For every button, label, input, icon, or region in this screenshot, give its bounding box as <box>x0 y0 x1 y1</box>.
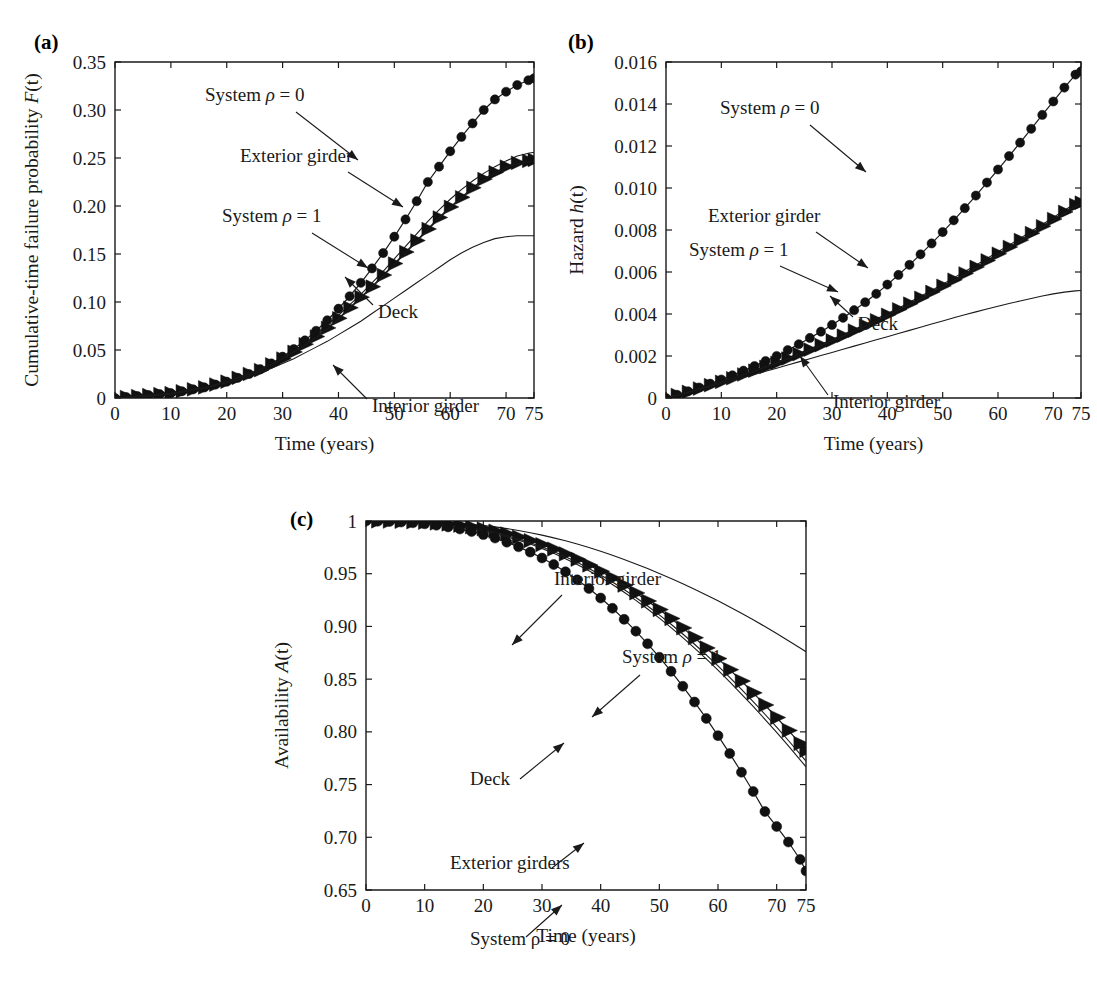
panel-label-b: (b) <box>568 30 594 55</box>
series-line <box>666 203 1081 398</box>
annot-system-rho-1: System ρ = 1 <box>222 205 322 226</box>
y-tick-label: 1 <box>348 511 358 532</box>
y-axis-title: Cumulative-time failure probability F(t) <box>21 73 43 387</box>
x-tick-label: 0 <box>661 403 671 424</box>
y-tick-label: 0 <box>97 388 107 409</box>
x-tick-label: 0 <box>110 403 120 424</box>
y-tick-label: 0.25 <box>73 148 106 169</box>
annot-interior-girder: Interior girder <box>372 395 480 416</box>
y-tick-label: 0.35 <box>73 52 106 73</box>
y-tick-label: 0.10 <box>73 292 106 313</box>
x-tick-label: 30 <box>273 403 292 424</box>
y-tick-label: 0.008 <box>614 220 657 241</box>
annot-system-rho-1: System ρ = 1 <box>689 239 789 260</box>
series-line <box>366 521 806 767</box>
x-tick-label: 70 <box>767 895 786 916</box>
series-markers <box>110 74 538 403</box>
x-tick-label: 20 <box>217 403 236 424</box>
x-axis-title: Time (years) <box>824 433 923 455</box>
series-line <box>666 290 1081 398</box>
annot-system-rho-0: System ρ = 0 <box>720 97 820 118</box>
panel-b: (b)0102030405060707500.0020.0040.0060.00… <box>548 0 1097 490</box>
chart-a: 0102030405060707500.050.100.150.200.250.… <box>0 0 548 490</box>
annot-system-rho-1: System ρ = 1 <box>622 646 722 667</box>
x-tick-label: 10 <box>712 403 731 424</box>
annot-system-rho-0: System ρ = 0 <box>205 84 305 105</box>
x-tick-label: 10 <box>415 895 434 916</box>
x-axis-title: Time (years) <box>275 433 374 455</box>
chart-c: 010203040506070750.650.700.750.800.850.9… <box>262 485 822 990</box>
panel-label-a: (a) <box>34 30 59 55</box>
y-tick-label: 0.80 <box>324 721 357 742</box>
series-line <box>366 521 806 750</box>
series-line <box>115 160 534 398</box>
x-tick-label: 70 <box>497 403 516 424</box>
series-line <box>666 71 1081 398</box>
annot-system-rho-0: System ρ = 0 <box>470 928 570 949</box>
y-tick-label: 0.014 <box>614 94 657 115</box>
y-tick-label: 0.016 <box>614 52 657 73</box>
annot-deck: Deck <box>470 768 511 789</box>
x-tick-label: 60 <box>709 895 728 916</box>
annot-exterior-girders: Exterior girders <box>450 852 570 873</box>
annot-deck: Deck <box>858 313 899 334</box>
y-tick-label: 0 <box>648 388 658 409</box>
x-tick-label: 75 <box>1072 403 1091 424</box>
y-tick-label: 0.70 <box>324 827 357 848</box>
panel-a: (a)0102030405060707500.050.100.150.200.2… <box>0 0 548 490</box>
y-tick-label: 0.012 <box>614 136 657 157</box>
series-line <box>666 202 1081 398</box>
x-tick-label: 60 <box>989 403 1008 424</box>
panel-label-c: (c) <box>290 507 313 532</box>
annot-exterior-girder: Exterior girder <box>708 205 821 226</box>
annot-deck: Deck <box>378 301 419 322</box>
axis-ticks <box>115 62 534 398</box>
x-tick-label: 75 <box>525 403 544 424</box>
svg-text:Cumulative-time failure probab: Cumulative-time failure probability F(t) <box>21 73 43 387</box>
y-tick-label: 0.85 <box>324 669 357 690</box>
y-tick-label: 0.75 <box>324 774 357 795</box>
x-tick-label: 40 <box>591 895 610 916</box>
y-tick-label: 0.002 <box>614 346 657 367</box>
y-tick-label: 0.010 <box>614 178 657 199</box>
x-tick-label: 50 <box>650 895 669 916</box>
y-tick-label: 0.95 <box>324 563 357 584</box>
y-tick-label: 0.004 <box>614 304 657 325</box>
y-axis-title: Availability A(t) <box>271 642 293 769</box>
annotations: System ρ = 0Exterior girderSystem ρ = 1D… <box>689 97 941 412</box>
x-tick-label: 40 <box>329 403 348 424</box>
x-tick-label: 10 <box>161 403 180 424</box>
x-tick-label: 20 <box>767 403 786 424</box>
annot-interior-girder: Interior girder <box>554 568 662 589</box>
y-tick-label: 0.90 <box>324 616 357 637</box>
series-markers <box>109 153 543 405</box>
data-curves <box>109 74 543 405</box>
svg-text:Hazard h(t): Hazard h(t) <box>566 185 588 274</box>
x-tick-label: 70 <box>1044 403 1063 424</box>
x-tick-label: 30 <box>533 895 552 916</box>
series-line <box>115 161 534 398</box>
annot-interior-girder: Interior girder <box>833 391 941 412</box>
x-tick-label: 20 <box>474 895 493 916</box>
y-tick-label: 0.30 <box>73 100 106 121</box>
chart-b: 0102030405060707500.0020.0040.0060.0080.… <box>548 0 1097 490</box>
y-tick-label: 0.05 <box>73 340 106 361</box>
annotations: System ρ = 0Exterior girderSystem ρ = 1D… <box>205 84 480 416</box>
panel-c: (c)010203040506070750.650.700.750.800.85… <box>262 485 822 990</box>
y-axis-title: Hazard h(t) <box>566 185 588 274</box>
annot-exterior-girder: Exterior girder <box>240 145 353 166</box>
x-tick-label: 75 <box>797 895 816 916</box>
y-tick-label: 0.006 <box>614 262 657 283</box>
x-tick-label: 0 <box>361 895 371 916</box>
svg-text:Availability A(t): Availability A(t) <box>271 642 293 769</box>
tick-labels: 0102030405060707500.050.100.150.200.250.… <box>73 52 544 425</box>
axes-box <box>115 62 534 398</box>
y-tick-label: 0.20 <box>73 196 106 217</box>
series-line <box>366 521 806 761</box>
y-tick-label: 0.65 <box>324 880 357 901</box>
y-tick-label: 0.15 <box>73 244 106 265</box>
series-markers <box>360 514 815 758</box>
